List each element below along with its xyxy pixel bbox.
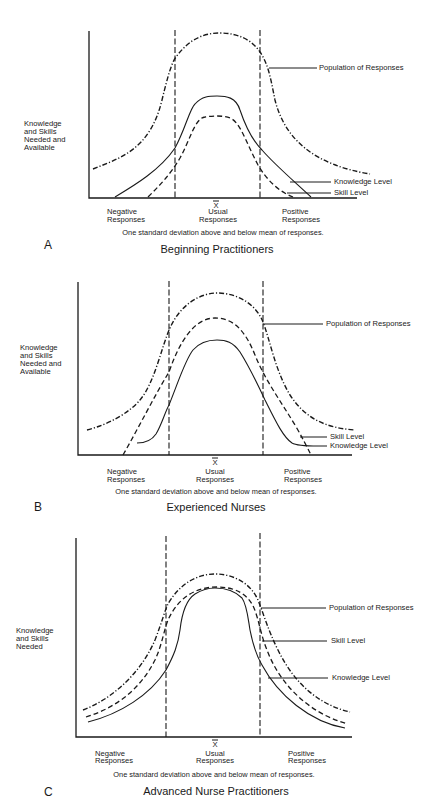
x-label-negative: Responses: [107, 215, 145, 224]
panel-c-axes: [76, 538, 352, 737]
panel-b-population-curve: [87, 293, 355, 430]
x-label-positive: Responses: [282, 215, 320, 224]
panel-c-population-curve: [83, 574, 350, 712]
panel-b-legend-population: Population of Responses: [326, 319, 411, 328]
panel-a-title: Beginning Practitioners: [160, 243, 274, 255]
panel-a-legend-skill: Skill Level: [334, 188, 368, 197]
panel-c: Knowledge and Skills Needed Population o…: [16, 533, 414, 799]
panel-b-title: Experienced Nurses: [166, 501, 266, 513]
x-label-usual: Responses: [196, 756, 234, 765]
figure-canvas: Knowledge and Skills Needed and Availabl…: [0, 0, 436, 801]
panel-c-x-labels: X Negative Responses Usual Responses Pos…: [95, 740, 326, 765]
x-label-positive: Responses: [288, 756, 326, 765]
panel-b-legend-knowledge: Knowledge Level: [330, 441, 388, 450]
panel-b-legend-skill: Skill Level: [330, 432, 364, 441]
panel-c-caption: One standard deviation above and below m…: [113, 770, 314, 779]
x-label-negative: Responses: [107, 475, 145, 484]
panel-a-knowledge-curve: [115, 96, 311, 197]
x-label-usual: Responses: [199, 215, 237, 224]
panel-c-knowledge-curve: [88, 588, 345, 728]
y-label-line: Available: [24, 143, 55, 152]
panel-b-knowledge-curve: [137, 340, 318, 446]
panel-c-title: Advanced Nurse Practitioners: [143, 785, 289, 797]
x-label-usual: Responses: [196, 475, 234, 484]
panel-a-axes: [89, 31, 357, 198]
panel-b: Knowledge and Skills Needed and Availabl…: [20, 281, 411, 514]
panel-b-axes: [78, 282, 352, 455]
panel-a-legend-population: Population of Responses: [319, 63, 404, 72]
panel-b-letter: B: [34, 500, 42, 514]
panel-b-skill-curve: [123, 318, 311, 455]
panel-a-caption: One standard deviation above and below m…: [122, 228, 323, 237]
panel-c-letter: C: [44, 785, 53, 799]
mean-symbol: X: [212, 458, 217, 467]
y-label-line: Needed: [16, 642, 43, 651]
y-label-line: Available: [20, 367, 51, 376]
panel-b-x-labels: X Negative Responses Usual Responses Pos…: [107, 458, 322, 484]
panel-c-y-label: Knowledge and Skills Needed: [16, 626, 54, 651]
panel-a-legend-knowledge: Knowledge Level: [334, 177, 392, 186]
panel-a-letter: A: [44, 238, 52, 252]
panel-c-legend-population: Population of Responses: [329, 603, 414, 612]
panel-c-legend-knowledge: Knowledge Level: [332, 673, 390, 682]
panel-c-legend-skill: Skill Level: [331, 636, 365, 645]
x-label-negative: Responses: [95, 756, 133, 765]
panel-a-skill-curve: [148, 116, 293, 197]
x-label-positive: Responses: [284, 475, 322, 484]
panel-b-y-label: Knowledge and Skills Needed and Availabl…: [20, 343, 61, 376]
panel-b-caption: One standard deviation above and below m…: [115, 487, 316, 496]
panel-a-population-curve: [93, 33, 370, 174]
panel-a-x-labels: X Negative Responses Usual Responses Pos…: [107, 201, 320, 224]
mean-symbol: X: [212, 740, 217, 749]
panel-a-y-label: Knowledge and Skills Needed and Availabl…: [24, 119, 65, 152]
panel-a: Knowledge and Skills Needed and Availabl…: [24, 30, 404, 255]
